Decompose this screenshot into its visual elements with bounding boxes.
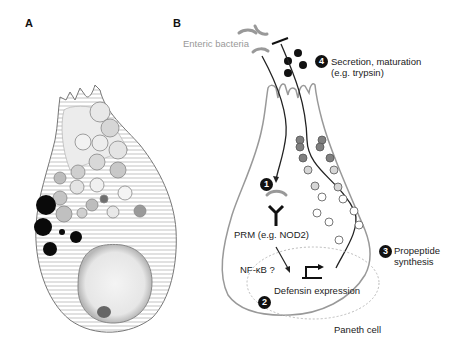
prm-label: PRM (e.g. NOD2) <box>234 229 309 240</box>
enteric-bacteria-label: Enteric bacteria <box>183 38 249 49</box>
defensin-pathway-schematic <box>0 0 457 356</box>
step-2-badge: 2 <box>258 296 271 309</box>
step-3-badge: 3 <box>379 245 392 258</box>
defensin-expression-label: Defensin expression <box>274 285 360 296</box>
paneth-cell-label: Paneth cell <box>334 324 381 335</box>
secretion-label: Secretion, maturation <box>331 56 421 67</box>
synthesis-label: synthesis <box>394 256 434 267</box>
step-1-badge: 1 <box>260 178 273 191</box>
propeptide-label: Propeptide <box>394 245 440 256</box>
nfkb-label: NF-κB ? <box>240 264 275 275</box>
step-4-badge: 4 <box>315 55 328 68</box>
secretion-example-label: (e.g. trypsin) <box>331 67 384 78</box>
